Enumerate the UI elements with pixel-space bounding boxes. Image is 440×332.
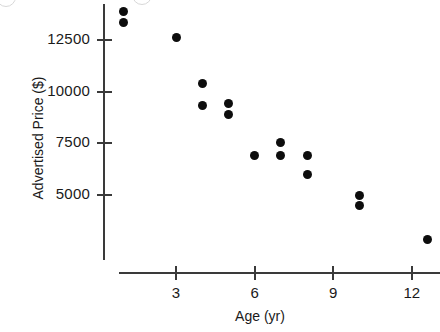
- x-tick-3: [175, 266, 177, 280]
- y-tick-10000: [97, 91, 112, 93]
- data-point: [423, 235, 432, 244]
- data-point: [198, 79, 207, 88]
- y-tick-5000: [97, 194, 112, 196]
- x-tick-9: [332, 266, 334, 280]
- data-point: [355, 191, 364, 200]
- data-point: [224, 99, 233, 108]
- data-point: [119, 7, 128, 16]
- data-point: [303, 151, 312, 160]
- data-point: [355, 201, 364, 210]
- data-point: [224, 110, 233, 119]
- x-tick-label: 12: [392, 284, 432, 301]
- x-tick-12: [411, 266, 413, 280]
- data-point: [119, 18, 128, 27]
- scatter-plot-figure: 500075001000012500 36912 Advertised Pric…: [0, 0, 440, 332]
- data-point: [250, 151, 259, 160]
- data-point: [172, 33, 181, 42]
- scan-artifact: [0, 0, 16, 7]
- x-axis-title: Age (yr): [200, 308, 320, 324]
- data-point: [198, 101, 207, 110]
- y-tick-12500: [97, 39, 112, 41]
- x-tick-label: 3: [156, 284, 196, 301]
- y-tick-7500: [97, 142, 112, 144]
- x-tick-6: [254, 266, 256, 280]
- data-point: [303, 170, 312, 179]
- y-axis-title: Advertised Price ($): [30, 38, 46, 238]
- x-tick-label: 6: [235, 284, 275, 301]
- x-axis-line: [119, 272, 440, 274]
- data-point: [276, 151, 285, 160]
- scan-artifact: [132, 0, 152, 5]
- data-point: [276, 138, 285, 147]
- x-tick-label: 9: [313, 284, 353, 301]
- y-axis-line: [103, 4, 105, 260]
